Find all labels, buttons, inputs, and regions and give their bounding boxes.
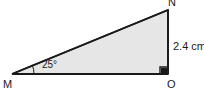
vertex-label-n: N <box>168 0 176 8</box>
vertex-label-m: M <box>3 79 12 90</box>
vertex-label-o: O <box>167 79 176 90</box>
triangle-diagram: M N O 2.4 cm 25° <box>0 0 204 105</box>
right-angle-marker-fill-icon <box>161 68 167 74</box>
side-length-label-no: 2.4 cm <box>173 41 204 52</box>
angle-measure-label-m: 25° <box>42 60 57 70</box>
